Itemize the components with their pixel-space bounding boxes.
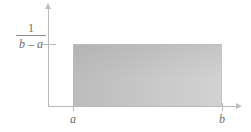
x-axis-line: [48, 106, 237, 107]
x-axis-tick-b: [222, 103, 223, 111]
x-axis-arrowhead-icon: [236, 103, 242, 109]
y-axis-tick-label-density: 1 b – a: [14, 22, 48, 50]
y-axis-arrowhead-icon: [45, 3, 51, 9]
x-axis-label-a: a: [65, 113, 81, 125]
y-axis-line: [48, 8, 49, 107]
uniform-density-region: [73, 44, 222, 106]
x-axis-label-b: b: [214, 113, 230, 125]
x-axis-tick-a: [73, 103, 74, 111]
fraction-numerator: 1: [14, 22, 48, 35]
fraction-bar: [16, 35, 46, 36]
uniform-distribution-figure: 1 b – a a b: [0, 0, 251, 132]
fraction-denominator: b – a: [14, 37, 48, 50]
